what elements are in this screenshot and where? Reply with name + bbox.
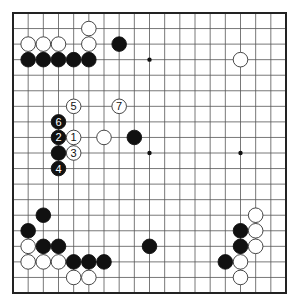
black-stone [127, 130, 142, 145]
white-stone: 1 [66, 130, 81, 145]
white-stone [36, 37, 51, 52]
white-stone: 5 [66, 99, 81, 114]
black-stone [36, 208, 51, 223]
white-stone [233, 52, 248, 67]
white-stone [248, 239, 263, 254]
white-stone [248, 223, 263, 238]
white-stone [233, 270, 248, 285]
black-stone [82, 52, 97, 67]
white-stone [97, 130, 112, 145]
move-number: 2 [55, 131, 61, 143]
black-stone: 2 [51, 130, 66, 145]
black-stone: 4 [51, 161, 66, 176]
go-board: 5762134 [0, 0, 300, 304]
move-number: 6 [55, 116, 61, 128]
black-stone [21, 223, 36, 238]
white-stone [21, 239, 36, 254]
black-stone [233, 223, 248, 238]
white-stone [36, 255, 51, 270]
black-stone [21, 52, 36, 67]
white-stone: 3 [66, 146, 81, 161]
move-number: 5 [71, 100, 77, 112]
star-point [238, 151, 242, 155]
move-number: 3 [71, 147, 77, 159]
white-stone [21, 255, 36, 270]
move-number: 1 [71, 131, 77, 143]
move-number: 4 [55, 163, 61, 175]
black-stone [82, 255, 97, 270]
star-point [147, 151, 151, 155]
black-stone [66, 255, 81, 270]
black-stone [51, 52, 66, 67]
black-stone [36, 52, 51, 67]
white-stone [82, 21, 97, 36]
white-stone [66, 270, 81, 285]
white-stone [233, 255, 248, 270]
white-stone [248, 208, 263, 223]
white-stone [21, 37, 36, 52]
white-stone [51, 37, 66, 52]
star-point [147, 57, 151, 61]
white-stone: 7 [112, 99, 127, 114]
black-stone [97, 255, 112, 270]
black-stone [51, 239, 66, 254]
black-stone [36, 239, 51, 254]
black-stone [142, 239, 157, 254]
white-stone [82, 37, 97, 52]
black-stone [51, 146, 66, 161]
black-stone [112, 37, 127, 52]
black-stone [66, 52, 81, 67]
white-stone [51, 255, 66, 270]
black-stone [233, 239, 248, 254]
move-number: 7 [116, 100, 122, 112]
black-stone [218, 255, 233, 270]
black-stone: 6 [51, 115, 66, 130]
white-stone [82, 270, 97, 285]
